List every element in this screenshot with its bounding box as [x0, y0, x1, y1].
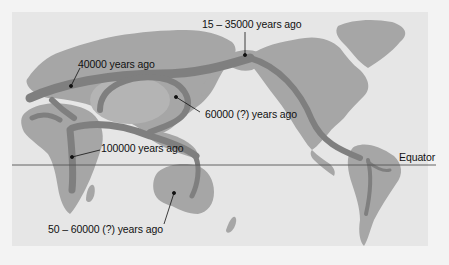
north-america — [251, 37, 369, 150]
australia — [153, 164, 214, 214]
dot-east-asia — [174, 95, 177, 98]
dot-africa — [70, 155, 73, 158]
route-africa — [70, 130, 73, 190]
central-america — [311, 150, 335, 176]
label-australia-50-60000: 50 – 60000 (?) years ago — [48, 223, 163, 235]
south-america — [348, 144, 401, 246]
land-masses — [21, 20, 405, 246]
dot-bering — [243, 53, 246, 56]
dot-australia — [172, 191, 175, 194]
equator-label: Equator — [399, 151, 435, 163]
label-bering-15-35000: 15 – 35000 years ago — [202, 18, 302, 30]
dot-europe — [69, 84, 72, 87]
label-europe-40000: 40000 years ago — [78, 58, 155, 70]
madagascar — [86, 185, 95, 202]
label-east-asia-60000: 60000 (?) years ago — [205, 108, 297, 120]
label-africa-100000: 100000 years ago — [101, 142, 183, 154]
new-zealand — [226, 217, 236, 233]
